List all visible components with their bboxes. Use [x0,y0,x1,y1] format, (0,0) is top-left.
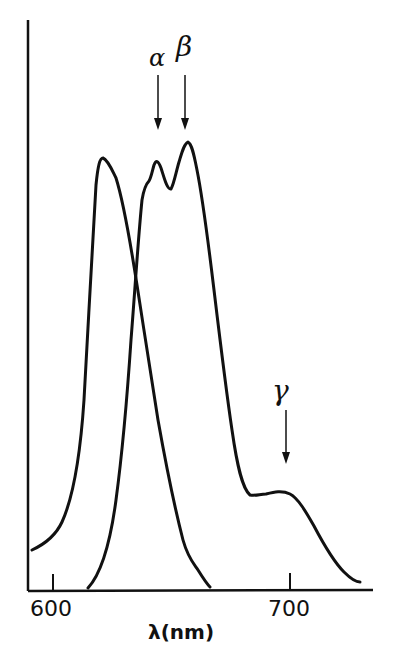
spectrum-chart [0,0,397,667]
curve-1 [32,158,210,587]
x-axis [28,590,373,591]
beta-arrowhead [181,118,189,130]
beta-label: β [176,30,192,63]
x-tick-label-700: 700 [268,596,310,621]
alpha-label: α [149,44,165,72]
x-axis-label: λ(nm) [148,620,214,644]
alpha-arrowhead [154,118,162,130]
x-tick-label-600: 600 [30,596,72,621]
curve-2 [88,142,360,588]
gamma-arrowhead [282,452,290,464]
gamma-label: γ [272,374,289,407]
